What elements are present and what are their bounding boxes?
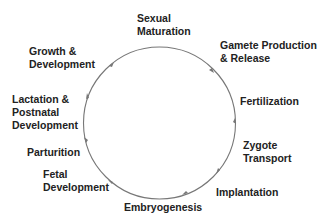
stage-parturition: Parturition	[27, 146, 80, 159]
stage-embryogenesis: Embryogenesis	[124, 201, 202, 214]
stage-zygote-transport: Zygote Transport	[243, 139, 291, 165]
stage-lactation: Lactation & Postnatal Development	[12, 93, 78, 132]
stage-sexual-maturation: Sexual Maturation	[137, 12, 191, 38]
stage-implantation: Implantation	[216, 186, 278, 199]
stage-growth-development: Growth & Development	[29, 45, 95, 71]
reproductive-cycle-diagram: Sexual Maturation Gamete Production & Re…	[0, 0, 322, 219]
stage-gamete-production: Gamete Production & Release	[220, 39, 317, 65]
stage-fetal-development: Fetal Development	[43, 168, 109, 194]
stage-fertilization: Fertilization	[240, 95, 299, 108]
